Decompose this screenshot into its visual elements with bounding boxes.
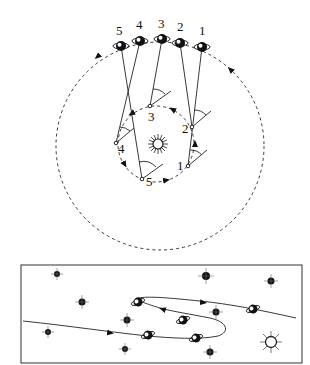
planet-label-1: 1: [199, 23, 206, 38]
planet-icon: [132, 36, 148, 46]
earth-label-5: 5: [146, 174, 153, 189]
earth-label-1: 1: [177, 158, 184, 173]
earth-label-3: 3: [148, 109, 155, 124]
planets-top: [113, 34, 210, 52]
sun-icon: [260, 331, 282, 353]
earth-position-1: [186, 164, 190, 168]
earth-position-3: [148, 104, 152, 108]
retrograde-diagram: 1 2 3 4 5: [0, 0, 310, 365]
bottom-panel: [21, 265, 302, 363]
top-panel: 1 2 3 4 5: [56, 16, 264, 250]
planet-label-2: 2: [177, 19, 184, 34]
outer-orbit-arrow-icon: [97, 52, 103, 57]
planet-label-5: 5: [116, 23, 123, 38]
planet-icon: [194, 42, 210, 52]
sun-icon: [148, 134, 168, 154]
earth-position-2: [190, 125, 194, 129]
planet-icon: [154, 34, 170, 44]
earth-position-5: [140, 177, 144, 181]
sight-lines: [116, 39, 202, 179]
planet-label-3: 3: [158, 16, 165, 31]
earth-label-2: 2: [182, 121, 189, 136]
planet-icon: [113, 41, 129, 51]
earth-label-4: 4: [118, 141, 125, 156]
planet-label-4: 4: [136, 17, 143, 32]
